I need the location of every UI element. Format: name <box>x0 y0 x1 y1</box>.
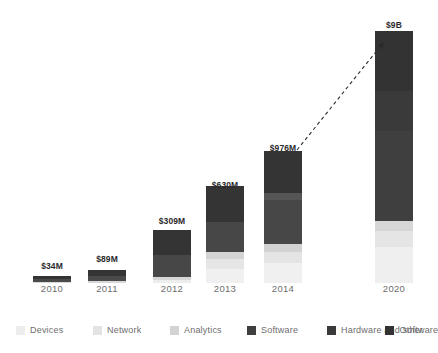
bar-2013 <box>206 186 244 283</box>
bar-segment-network <box>375 231 413 247</box>
legend-label: Devices <box>30 325 63 335</box>
bar-segment-software <box>264 200 302 244</box>
legend-item-analytics[interactable]: Analytics <box>170 325 222 335</box>
legend-item-other[interactable]: Other <box>385 325 423 335</box>
legend-item-software[interactable]: Software <box>247 325 298 335</box>
bar-segment-analytics <box>264 244 302 252</box>
value-label-2020: $9B <box>354 20 434 30</box>
value-label-2012: $309M <box>132 216 212 226</box>
x-tick-2014: 2014 <box>243 283 323 294</box>
bar-segment-network <box>264 252 302 263</box>
legend-swatch-icon <box>385 326 394 335</box>
bar-segment-devices <box>375 247 413 283</box>
legend-label: Other <box>399 325 423 335</box>
bar-segment-other <box>264 151 302 193</box>
bar-2011 <box>88 270 126 283</box>
legend-item-network[interactable]: Network <box>93 325 141 335</box>
legend-label: Software <box>261 325 298 335</box>
growth-projection-arrow <box>297 48 379 150</box>
bar-segment-other <box>375 31 413 91</box>
bar-2014 <box>264 151 302 283</box>
bar-segment-hardware-and-software <box>264 193 302 200</box>
x-tick-2020: 2020 <box>354 283 434 294</box>
legend-swatch-icon <box>93 326 102 335</box>
value-label-2014: $976M <box>243 143 323 153</box>
bar-segment-analytics <box>375 221 413 231</box>
plot-area: $34M$89M$309M$630M$976M$9B <box>0 0 431 283</box>
value-label-2013: $630M <box>185 180 265 190</box>
legend-item-devices[interactable]: Devices <box>16 325 63 335</box>
bar-segment-network <box>206 259 244 269</box>
bar-segment-other <box>153 230 191 255</box>
bar-segment-software <box>206 222 244 252</box>
bar-segment-software <box>153 255 191 277</box>
value-label-2011: $89M <box>67 254 147 264</box>
bar-segment-devices <box>206 269 244 283</box>
x-axis-labels: 201020112012201320142020 <box>0 283 431 303</box>
bar-segment-software <box>375 131 413 221</box>
bar-2012 <box>153 230 191 283</box>
legend-label: Analytics <box>184 325 222 335</box>
bar-segment-devices <box>264 263 302 283</box>
legend-swatch-icon <box>170 326 179 335</box>
legend-swatch-icon <box>327 326 336 335</box>
bar-2010 <box>33 276 71 283</box>
bar-segment-hardware-and-software <box>375 91 413 131</box>
legend-swatch-icon <box>16 326 25 335</box>
legend-label: Network <box>107 325 141 335</box>
legend-swatch-icon <box>247 326 256 335</box>
chart-legend: DevicesNetworkAnalyticsSoftwareHardware … <box>0 320 431 340</box>
bar-segment-analytics <box>206 252 244 259</box>
bar-2020 <box>375 31 413 283</box>
